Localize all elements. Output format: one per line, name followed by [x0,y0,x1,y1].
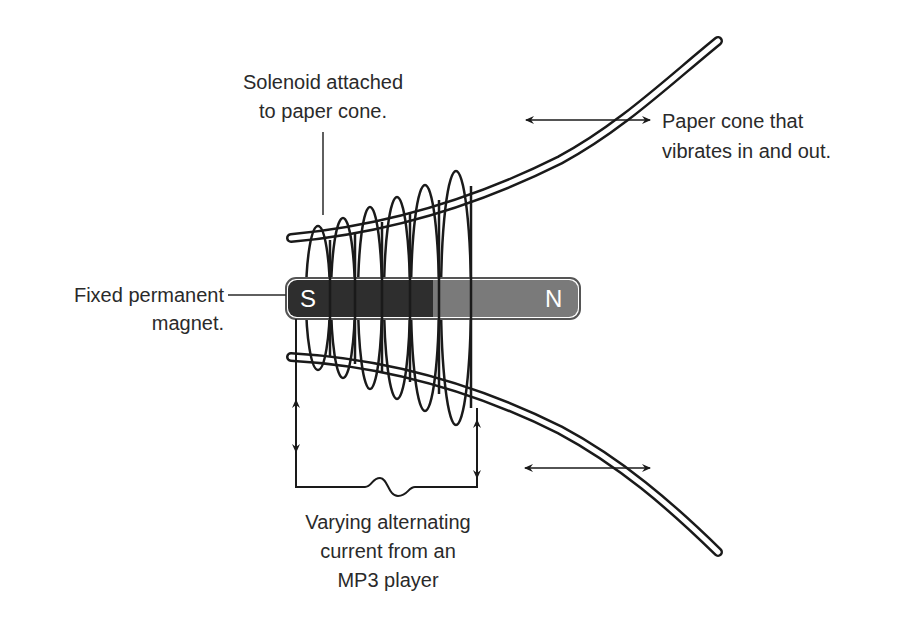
label-solenoid-line1: Solenoid attached [243,71,403,93]
label-cone: Paper cone that vibrates in and out. [662,110,831,162]
loudspeaker-diagram: S N Solenoid attached to paper cone. Pap… [0,0,897,617]
label-current-line1: Varying alternating [305,511,470,533]
magnet-south-pole-label: S [300,285,316,312]
label-solenoid-line2: to paper cone. [259,100,387,122]
label-solenoid: Solenoid attached to paper cone. [243,71,403,122]
label-cone-line1: Paper cone that [662,110,804,132]
label-cone-line2: vibrates in and out. [662,140,831,162]
label-magnet-line2: magnet. [152,312,224,334]
label-current-line3: MP3 player [337,569,438,591]
label-magnet-line1: Fixed permanent [74,284,225,306]
label-magnet: Fixed permanent magnet. [74,284,225,334]
magnet-north-pole-label: N [545,285,562,312]
label-current-line2: current from an [320,540,456,562]
label-current: Varying alternating current from an MP3 … [305,511,470,591]
